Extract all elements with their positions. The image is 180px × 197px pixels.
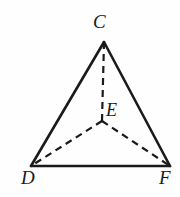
solid-edge-group: [31, 42, 170, 166]
vertex-label-e: E: [106, 101, 117, 119]
edge-CD-solid: [31, 42, 104, 166]
dashed-edge-group: [31, 42, 170, 166]
edge-ED-dashed: [31, 121, 102, 166]
edge-CE-dashed: [102, 42, 104, 121]
vertex-label-f: F: [159, 168, 171, 187]
edge-EF-dashed: [102, 121, 170, 166]
vertex-label-c: C: [93, 12, 106, 31]
geometry-figure: C E D F: [0, 0, 180, 197]
vertex-label-d: D: [21, 168, 35, 187]
